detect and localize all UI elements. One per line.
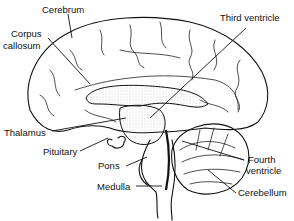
label-medulla: Medulla [97,182,130,192]
corpus-callosum [86,85,208,107]
label-thalamus: Thalamus [4,128,46,138]
brain-diagram: Cerebrum Corpus callosum Third ventricle… [0,0,294,221]
fourth-ventricle [166,130,169,190]
label-third-ventricle: Third ventricle [220,13,280,23]
brainstem [142,140,158,218]
label-fourth-ventricle-1: Fourth [248,155,275,165]
pituitary [108,136,126,148]
label-corpus-callosum-1: Corpus [11,29,42,39]
label-pituitary: Pituitary [43,147,77,157]
label-corpus-callosum-2: callosum [3,41,41,51]
label-cerebellum: Cerebellum [238,188,287,198]
label-cerebrum: Cerebrum [42,5,84,15]
thalamus-region [119,105,165,144]
cerebellum [172,124,249,194]
label-fourth-ventricle-2: ventricle [246,166,281,176]
cerebellum-folia [180,128,244,184]
label-pons: Pons [98,161,120,171]
